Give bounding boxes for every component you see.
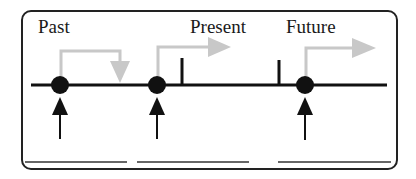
future-up-arrow-icon	[297, 97, 313, 140]
label-future: Future	[286, 16, 336, 37]
past-event-dot	[51, 76, 69, 94]
present-gray-arrow-icon	[158, 47, 210, 82]
past-up-arrow-icon	[52, 97, 68, 139]
label-past: Past	[38, 16, 70, 37]
timeline-diagram: Past Present Future	[0, 0, 416, 179]
future-gray-arrow-icon	[306, 48, 354, 82]
future-event-dot	[296, 76, 314, 94]
future-gray-arrowhead-icon	[352, 38, 376, 58]
past-gray-arrow-icon	[61, 51, 120, 82]
label-present: Present	[190, 16, 247, 37]
present-up-arrow-icon	[149, 97, 165, 139]
present-gray-arrowhead-icon	[208, 37, 231, 57]
present-event-dot	[148, 76, 166, 94]
past-gray-arrowhead-icon	[110, 61, 130, 83]
